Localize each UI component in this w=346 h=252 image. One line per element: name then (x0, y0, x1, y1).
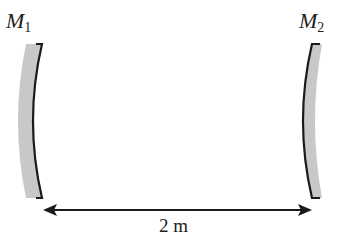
mirror-m1 (18, 44, 42, 198)
distance-label: 2 m (159, 215, 188, 237)
mirror-m2 (303, 44, 322, 198)
mirror-m1-label: M1 (6, 8, 31, 36)
mirror-m2-label: M2 (299, 8, 324, 36)
